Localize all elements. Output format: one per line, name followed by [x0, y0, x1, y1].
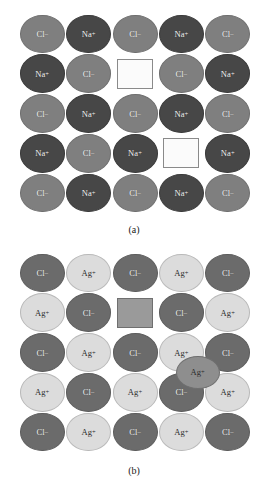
ion-cl-r1c1: Cl–	[66, 293, 111, 332]
ion-label: Cl	[176, 387, 184, 397]
ion-ag-r0c3: Ag+	[159, 254, 204, 293]
ion-label: Na	[174, 188, 184, 198]
ion-cl-r3c1: Cl–	[66, 373, 111, 412]
ion-na-r0c1: Na+	[66, 15, 111, 54]
ion-ag-r3c2: Ag+	[113, 373, 158, 412]
ion-cl-r4c4: Cl–	[205, 413, 250, 452]
ion-cl-r4c2: Cl–	[113, 174, 158, 213]
ion-label: Na	[35, 148, 45, 158]
ion-label: Cl	[36, 348, 44, 358]
ion-cl-r0c2: Cl–	[113, 254, 158, 293]
ion-label: Ag	[221, 387, 232, 397]
ion-cl-r2c4: Cl–	[205, 94, 250, 133]
ion-label: Na	[174, 109, 184, 119]
ion-cl-r1c1: Cl–	[66, 54, 111, 93]
ion-label: Na	[174, 29, 184, 39]
ion-cl-r0c2: Cl–	[113, 15, 158, 54]
ion-label: Ag	[128, 387, 139, 397]
ion-label: Cl	[83, 69, 91, 79]
ion-cl-r2c2: Cl–	[113, 94, 158, 133]
panel-b-agcl-frenkel-defect: Cl–Ag+Cl–Ag+Cl–Ag+Cl–Cl–Ag+Cl–Ag+Cl–Ag+C…	[0, 243, 268, 486]
ion-label: Ag	[190, 367, 201, 377]
ion-na-r0c3: Na+	[159, 15, 204, 54]
ion-label: Na	[82, 29, 92, 39]
ion-label: Cl	[36, 427, 44, 437]
ion-na-r4c1: Na+	[66, 174, 111, 213]
ion-label: Cl	[222, 427, 230, 437]
ion-cl-r1c3: Cl–	[159, 293, 204, 332]
ion-cl-r1c3: Cl–	[159, 54, 204, 93]
ion-label: Na	[82, 109, 92, 119]
ion-label: Cl	[176, 308, 184, 318]
vacancy-site-r1c2	[117, 59, 153, 89]
ion-label: Ag	[35, 387, 46, 397]
ion-label: Ag	[81, 427, 92, 437]
ion-label: Na	[82, 188, 92, 198]
panel-a-caption: (a)	[0, 224, 268, 235]
ion-na-r1c0: Na+	[20, 54, 65, 93]
ion-na-r4c3: Na+	[159, 174, 204, 213]
ion-label: Ag	[81, 348, 92, 358]
ion-ag-r4c3: Ag+	[159, 413, 204, 452]
ion-na-r2c1: Na+	[66, 94, 111, 133]
vacancy-site-r3c3	[163, 138, 199, 168]
ion-ag-r2c1: Ag+	[66, 333, 111, 372]
ion-cl-r4c4: Cl–	[205, 174, 250, 213]
vacancy-site-r1c2	[117, 298, 153, 328]
lattice-grid-a: Cl–Na+Cl–Na+Cl–Na+Cl–Cl–Na+Cl–Na+Cl–Na+C…	[19, 14, 251, 213]
panel-b-caption: (b)	[0, 465, 268, 476]
ion-na-r3c2: Na+	[113, 134, 158, 173]
ion-na-r3c4: Na+	[205, 134, 250, 173]
ion-cl-r0c4: Cl–	[205, 15, 250, 54]
lattice-grid-b: Cl–Ag+Cl–Ag+Cl–Ag+Cl–Cl–Ag+Cl–Ag+Cl–Ag+C…	[19, 253, 251, 452]
ion-label: Cl	[222, 109, 230, 119]
ion-label: Ag	[174, 427, 185, 437]
ion-label: Cl	[222, 29, 230, 39]
ion-label: Cl	[83, 148, 91, 158]
ion-cl-r4c0: Cl–	[20, 174, 65, 213]
ion-ag-r1c0: Ag+	[20, 293, 65, 332]
ion-cl-r4c2: Cl–	[113, 413, 158, 452]
ion-cl-r0c0: Cl–	[20, 15, 65, 54]
ion-cl-r0c0: Cl–	[20, 254, 65, 293]
ion-label: Cl	[222, 188, 230, 198]
ion-label: Cl	[222, 348, 230, 358]
ion-label: Cl	[36, 188, 44, 198]
ion-label: Cl	[36, 268, 44, 278]
ion-cl-r2c0: Cl–	[20, 94, 65, 133]
ion-label: Cl	[36, 29, 44, 39]
ion-cl-r4c0: Cl–	[20, 413, 65, 452]
ion-label: Cl	[176, 69, 184, 79]
ion-label: Cl	[36, 109, 44, 119]
ion-label: Na	[128, 148, 138, 158]
ion-cl-r2c2: Cl–	[113, 333, 158, 372]
ion-label: Cl	[222, 268, 230, 278]
ion-label: Ag	[174, 268, 185, 278]
ion-na-r2c3: Na+	[159, 94, 204, 133]
interstitial-ion-ag-0: Ag+	[176, 356, 220, 389]
ion-label: Na	[35, 69, 45, 79]
ion-label: Cl	[83, 387, 91, 397]
panel-a-nacl-schottky-defect: Cl–Na+Cl–Na+Cl–Na+Cl–Cl–Na+Cl–Na+Cl–Na+C…	[0, 0, 268, 243]
ion-na-r1c4: Na+	[205, 54, 250, 93]
ion-ag-r3c0: Ag+	[20, 373, 65, 412]
ion-ag-r1c4: Ag+	[205, 293, 250, 332]
ion-label: Cl	[83, 308, 91, 318]
ion-na-r3c0: Na+	[20, 134, 65, 173]
ion-label: Ag	[174, 348, 185, 358]
ion-label: Ag	[221, 308, 232, 318]
ion-label: Ag	[35, 308, 46, 318]
ion-cl-r0c4: Cl–	[205, 254, 250, 293]
ion-label: Na	[221, 148, 231, 158]
ion-ag-r4c1: Ag+	[66, 413, 111, 452]
ion-cl-r3c1: Cl–	[66, 134, 111, 173]
ion-cl-r2c0: Cl–	[20, 333, 65, 372]
ion-label: Ag	[81, 268, 92, 278]
ion-ag-r0c1: Ag+	[66, 254, 111, 293]
ion-label: Na	[221, 69, 231, 79]
